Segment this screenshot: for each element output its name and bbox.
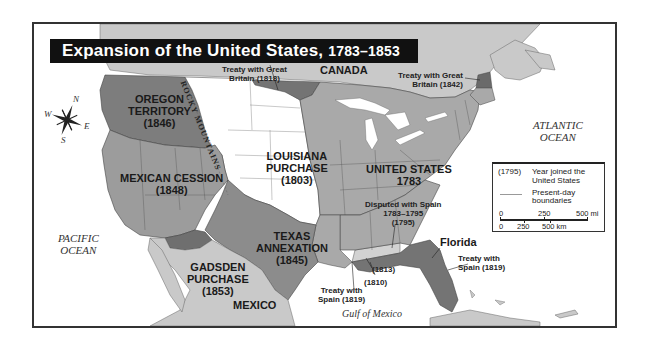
annotation-1810: (1810) — [364, 279, 387, 288]
region-cuba — [430, 310, 540, 326]
label-texas-annexation: TEXAS ANNEXATION (1845) — [256, 230, 328, 266]
title-main: Expansion of the United States, — [62, 41, 328, 60]
legend-boundary-desc: Present-day boundaries — [532, 189, 599, 207]
region-united-states-1783 — [300, 82, 480, 215]
boundary-line-swatch — [500, 194, 522, 195]
label-pacific-ocean: PACIFIC OCEAN — [58, 232, 99, 256]
label-canada: CANADA — [320, 64, 368, 76]
label-gadsden-purchase: GADSDEN PURCHASE (1853) — [187, 261, 249, 297]
compass-e: E — [84, 122, 90, 132]
map-legend: (1795) Year joined the United States Pre… — [492, 162, 605, 232]
legend-year-desc: Year joined the United States — [532, 168, 599, 186]
title-years: 1783–1853 — [328, 43, 400, 59]
scale-km-end: 500 km — [542, 222, 567, 231]
compass-n: N — [73, 95, 79, 105]
label-louisiana-purchase: LOUISIANA PURCHASE (1803) — [266, 150, 328, 186]
annotation-1813: (1813) — [372, 266, 395, 275]
scale-bar: 0 250 500 mi 0 250 500 km — [498, 209, 599, 231]
annotation-disputed-spain: Disputed with Spain 1783–1795 (1795) — [365, 201, 441, 227]
label-atlantic-ocean: ATLANTIC OCEAN — [533, 119, 583, 143]
legend-year-row: (1795) Year joined the United States — [498, 168, 599, 186]
scale-km-zero: 0 — [499, 222, 503, 231]
annotation-treaty-spain-texas: Treaty with Spain (1819) — [318, 287, 365, 305]
legend-year-key: (1795) — [498, 168, 532, 186]
label-florida: Florida — [440, 236, 477, 248]
compass-s: S — [61, 136, 66, 146]
annotation-treaty-1818: Treaty with Great Britain (1818) — [222, 66, 287, 84]
map-title: Expansion of the United States, 1783–185… — [50, 39, 418, 63]
label-mexico: MEXICO — [233, 299, 276, 311]
annotation-treaty-1842: Treaty with Great Britain (1842) — [398, 72, 463, 90]
legend-boundary-row: Present-day boundaries — [498, 189, 599, 207]
compass-rose-icon — [42, 95, 92, 145]
label-oregon-territory: OREGON TERRITORY (1846) — [128, 93, 191, 129]
label-gulf-of-mexico: Gulf of Mexico — [342, 308, 402, 319]
annotation-treaty-spain-florida: Treaty with Spain (1819) — [458, 255, 505, 273]
label-mexican-cession: MEXICAN CESSION (1848) — [120, 172, 223, 196]
compass-w: W — [44, 110, 52, 120]
label-united-states: UNITED STATES 1783 — [366, 163, 452, 187]
scale-km-mid: 250 — [517, 222, 530, 231]
